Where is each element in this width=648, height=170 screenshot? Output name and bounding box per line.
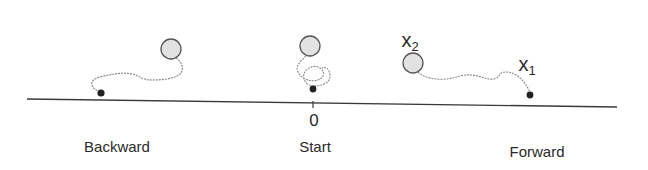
backward-end-circle — [161, 39, 181, 59]
x1-base: x — [518, 53, 528, 75]
forward-path — [418, 72, 530, 92]
start-trajectory — [297, 36, 330, 92]
backward-path — [92, 58, 183, 92]
backward-trajectory — [92, 39, 183, 97]
origin-label: 0 — [309, 111, 318, 131]
forward-start-dot — [527, 92, 534, 99]
movement-diagram: 0 x2 x1 Backward Start Forward — [0, 0, 648, 170]
forward-end-circle — [403, 53, 423, 73]
start-end-circle — [300, 36, 320, 56]
start-label: Start — [299, 138, 331, 155]
forward-label: Forward — [509, 143, 564, 160]
start-origin-dot — [310, 86, 317, 93]
baseline-axis — [27, 99, 617, 107]
x2-base: x — [401, 29, 411, 51]
x2-subscript: 2 — [411, 39, 418, 54]
forward-trajectory — [403, 53, 533, 98]
backward-start-dot — [97, 89, 104, 96]
x2-label: x2 — [401, 29, 418, 54]
backward-label: Backward — [84, 138, 150, 155]
x1-subscript: 1 — [528, 63, 535, 78]
x1-label: x1 — [518, 53, 535, 78]
start-path — [297, 56, 330, 86]
